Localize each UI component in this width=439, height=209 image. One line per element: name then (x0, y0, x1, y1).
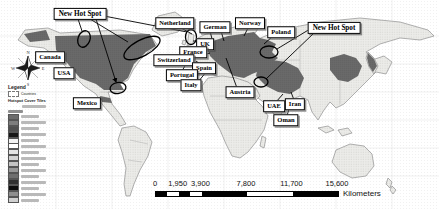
world-map (0, 0, 439, 209)
legend-row-label (21, 151, 39, 153)
scale-tick: 0 (153, 179, 157, 188)
compass-west-label: W (11, 66, 16, 71)
legend-row (8, 198, 60, 202)
scale-bar (155, 191, 339, 197)
legend-row-label (21, 127, 39, 129)
countries-swatch (8, 91, 19, 97)
legend-row-label (21, 115, 39, 117)
legend-title: Legend (8, 84, 60, 90)
legend-row-label (21, 193, 46, 195)
scale-tick: 3,900 (191, 179, 210, 188)
compass-east-label: E (42, 66, 45, 71)
scale-segment (293, 192, 339, 196)
legend-row-label (21, 145, 46, 147)
legend-tiles-heading: Hotspot Cover Tiles (8, 98, 60, 103)
legend-class-rows (8, 114, 60, 202)
legend-countries-label: Countries (21, 92, 36, 96)
legend-row (8, 114, 60, 118)
legend-row-label (21, 139, 39, 141)
scale-tick: 11,700 (280, 179, 302, 188)
legend-row (8, 144, 60, 148)
scale-tick: 7,800 (237, 179, 256, 188)
scale-segment (156, 192, 167, 196)
legend-row (8, 186, 60, 190)
scale-segment (179, 192, 190, 196)
legend-row-label (21, 187, 39, 189)
scale-segment (202, 192, 248, 196)
legend-row (8, 180, 60, 184)
legend-countries-row: Countries (8, 92, 60, 96)
legend-row-label (21, 157, 46, 159)
scale-tick: 1,950 (168, 179, 187, 188)
legend-row (8, 138, 60, 142)
legend-row-label (21, 133, 46, 135)
legend-row (8, 156, 60, 160)
scale-unit-label: Kilometers (343, 189, 381, 198)
legend-row (8, 120, 60, 124)
legend-row-label (21, 121, 46, 123)
legend-row-label (21, 181, 46, 183)
scale-bar-group: 01,9503,9007,80011,70015,600 Kilometers (150, 179, 410, 203)
scale-tick: 15,600 (326, 179, 349, 188)
legend-subtext (22, 105, 46, 107)
scale-tick-labels: 01,9503,9007,80011,70015,600 (150, 179, 410, 188)
legend-row (8, 174, 60, 178)
legend-row-label (21, 199, 39, 201)
legend-row (8, 126, 60, 130)
legend-section-heading (8, 110, 23, 112)
legend-row (8, 192, 60, 196)
legend-row-label (21, 169, 46, 171)
legend-row (8, 150, 60, 154)
legend-row (8, 162, 60, 166)
legend-row (8, 168, 60, 172)
island-ireland (182, 40, 186, 45)
compass-north-label: N (26, 50, 30, 55)
legend-row (8, 132, 60, 136)
legend-swatch (8, 197, 19, 203)
map-figure: N E S W New Hot SpotNetherlandGermanNorw… (0, 0, 439, 209)
legend-panel: Legend Countries Hotspot Cover Tiles (8, 84, 60, 203)
legend-row-label (21, 175, 39, 177)
legend-row-label (21, 163, 39, 165)
